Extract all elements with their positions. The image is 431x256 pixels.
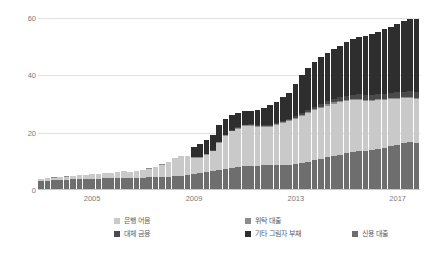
bar-segment [280,165,286,190]
bar-segment [344,42,350,96]
legend-swatch-icon [114,218,120,224]
bar-segment [235,167,241,190]
legend-swatch-icon [352,231,358,237]
bar [178,156,184,190]
legend-item[interactable]: 기타 그림자 부채 [245,230,301,237]
bar [96,174,102,190]
bar [204,140,210,190]
bar-segment [242,111,248,124]
bar-segment [318,57,324,104]
bar [70,176,76,190]
bar-segment [356,151,362,190]
legend-label: 신용 대출 [362,230,388,237]
bar-segment [204,155,210,172]
bar-segment [407,98,413,142]
bar [153,167,159,190]
bar-segment [331,156,337,190]
bar-segment [140,170,146,177]
bar-segment [363,101,369,151]
y-axis-tick-label: 60 [6,13,36,22]
bar [274,102,280,190]
bar-segment [369,101,375,150]
bar [293,84,299,190]
bar [280,97,286,190]
bar [197,144,203,190]
bar-segment [286,165,292,190]
bar-segment [312,160,318,190]
bar-segment [210,171,216,190]
bar-segment [261,108,267,125]
x-axis-tick-label: 2009 [186,194,203,203]
legend-label: 기타 그림자 부채 [255,230,301,237]
bar [248,111,254,191]
legend-item[interactable]: 위탁 대출 [245,217,281,224]
bar-segment [394,145,400,190]
bar-segment [375,149,381,190]
bar-segment [344,153,350,190]
stacked-bar-chart: 은행 어음대체 금융위탁 대출기타 그림자 부채신용 대출 0204060200… [0,0,431,256]
bar-segment [356,100,362,151]
bar-segment [274,165,280,190]
bar-segment [299,163,305,190]
bar [394,24,400,190]
bar-segment [242,126,248,166]
bar [134,171,140,190]
bar [261,108,267,190]
bar-segment [248,111,254,125]
bar-segment [325,53,331,101]
bar-segment [242,166,248,190]
bar-segment [344,101,350,153]
bar-segment [286,93,292,119]
bar [363,36,369,190]
bar [108,173,114,190]
legend-item[interactable]: 대체 금융 [114,230,150,237]
bar-segment [185,175,191,190]
bar-segment [305,68,311,110]
bar-segment [388,99,394,146]
bar-segment [216,170,222,190]
x-axis-tick-label: 2005 [84,194,101,203]
chart-legend: 은행 어음대체 금융위탁 대출기타 그림자 부채신용 대출 [0,212,431,256]
legend-swatch-icon [245,218,251,224]
bar [89,174,95,190]
bar-segment [261,165,267,190]
bar-segment [350,39,356,95]
bar-segment [274,125,280,165]
legend-item[interactable]: 은행 어음 [114,217,150,224]
bar [185,156,191,190]
bar [267,105,273,190]
bar-segment [172,176,178,190]
bar-segment [267,127,273,166]
bar [235,113,241,190]
bar-segment [235,113,241,127]
bar-segment [325,157,331,190]
bar-segment [229,168,235,190]
bar [407,19,413,190]
legend-item[interactable]: 신용 대출 [352,230,388,237]
bar-segment [375,100,381,149]
bar-segment [363,36,369,95]
bar [229,115,235,190]
bar-segment [191,158,197,174]
x-axis-line [38,189,420,190]
bar-segment [197,173,203,190]
bar [140,170,146,190]
bar [146,168,152,190]
bar [375,32,381,190]
bar-segment [216,143,222,170]
bar [337,46,343,190]
bar-segment [337,46,343,98]
bar-group [38,12,420,190]
bar-segment [407,142,413,190]
bar-segment [337,102,343,155]
bar-segment [414,143,420,190]
bar [286,93,292,190]
bar-segment [401,143,407,190]
bar-segment [382,29,388,93]
bar-segment [369,150,375,190]
legend-label: 대체 금융 [124,230,150,237]
bar-segment [382,148,388,190]
bar [166,162,172,190]
bar-segment [185,156,191,175]
bar [210,135,216,190]
